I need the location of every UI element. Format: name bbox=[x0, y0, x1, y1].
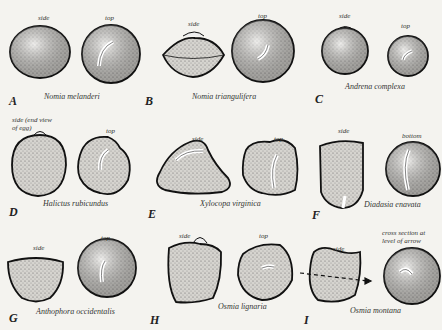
panel-g-view-side: side bbox=[33, 244, 44, 252]
panel-h-side-drawing bbox=[168, 238, 221, 303]
panel-b-letter: B bbox=[145, 94, 153, 109]
panel-i-letter: I bbox=[304, 313, 309, 328]
panel-i-cross-section-drawing bbox=[384, 248, 440, 304]
panel-f-species: Diadasia enavata bbox=[364, 200, 421, 209]
panel-f-view-bottom: bottom bbox=[402, 132, 421, 140]
panel-i-view-cross-section: cross section at level of arrow bbox=[382, 229, 425, 245]
panel-a-view-top: top bbox=[105, 14, 114, 22]
panel-b-side-drawing bbox=[163, 32, 224, 77]
panel-c-letter: C bbox=[315, 92, 323, 107]
panel-c-top-drawing bbox=[388, 36, 428, 76]
panel-i-species: Osmia montana bbox=[350, 306, 401, 315]
panel-h-view-top: top bbox=[259, 232, 268, 240]
panel-f-side-drawing bbox=[320, 141, 363, 208]
panel-f-bottom-drawing bbox=[386, 142, 440, 196]
panel-g-side-drawing bbox=[8, 258, 63, 302]
panel-h-top-drawing bbox=[238, 244, 292, 300]
pollen-mass-figure bbox=[0, 0, 442, 330]
panel-c-side-drawing bbox=[322, 27, 368, 75]
panel-d-top-drawing bbox=[78, 137, 130, 194]
panel-g-view-top: top bbox=[101, 234, 110, 242]
panel-g-species: Anthophora occidentalis bbox=[36, 307, 115, 316]
panel-e-species: Xylocopa virginica bbox=[200, 199, 261, 208]
panel-a-species: Nomia melanderi bbox=[44, 92, 100, 101]
panel-e-top-drawing bbox=[243, 140, 298, 195]
panel-a-view-side: side bbox=[38, 14, 49, 22]
panel-e-letter: E bbox=[148, 207, 156, 222]
panel-g-top-drawing bbox=[78, 239, 136, 297]
panel-h-letter: H bbox=[150, 313, 159, 328]
panel-g-letter: G bbox=[9, 311, 18, 326]
panel-c-view-top: top bbox=[401, 22, 410, 30]
panel-b-view-top: top bbox=[258, 12, 267, 20]
panel-b-species: Nomia triangulifera bbox=[192, 92, 256, 101]
panel-c-species: Andrena complexa bbox=[345, 82, 405, 91]
panel-d-side-drawing bbox=[12, 132, 66, 197]
panel-d-view-side: side (end view of egg) bbox=[12, 116, 52, 132]
panel-e-view-top: top bbox=[274, 135, 283, 143]
panel-e-side-drawing bbox=[157, 141, 230, 194]
panel-b-top-drawing bbox=[232, 20, 294, 82]
panel-d-species: Halictus rubicundus bbox=[43, 199, 108, 208]
panel-c-view-side: side bbox=[339, 12, 350, 20]
panel-f-letter: F bbox=[312, 208, 320, 223]
panel-a-side-drawing bbox=[10, 26, 70, 78]
panel-h-view-side: side bbox=[179, 232, 190, 240]
panel-i-view-side: side bbox=[333, 245, 344, 253]
panel-d-letter: D bbox=[9, 205, 18, 220]
panel-f-view-side: side bbox=[338, 127, 349, 135]
panel-e-view-side: side bbox=[192, 135, 203, 143]
panel-a-top-drawing bbox=[82, 25, 140, 83]
panel-h-species: Osmia lignaria bbox=[218, 302, 267, 311]
panel-a-letter: A bbox=[9, 94, 17, 109]
panel-d-view-top: top bbox=[106, 127, 115, 135]
panel-b-view-side: side bbox=[188, 20, 199, 28]
